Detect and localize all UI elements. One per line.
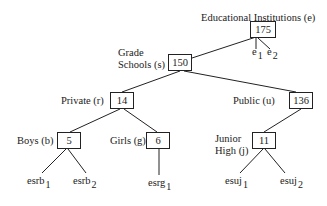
edge-s-r — [122, 71, 180, 92]
edge-e-s — [192, 37, 256, 58]
node-g-label: Girls (g) — [110, 135, 146, 147]
leaf-esuj1-base: esuj — [225, 175, 242, 186]
node-s-box: 150 — [168, 54, 192, 71]
edge-j-esuj2 — [265, 149, 285, 173]
leaf-e2-sub: 2 — [273, 50, 278, 61]
node-j-box: 11 — [252, 132, 276, 149]
node-b-box: 5 — [57, 132, 81, 149]
node-e-box: 175 — [250, 21, 276, 38]
leaf-esuj2-sub: 2 — [298, 179, 303, 190]
node-r-box: 14 — [110, 92, 134, 109]
node-s-label-line1: Grade — [118, 47, 144, 59]
node-j-label-line2: High (j) — [215, 145, 249, 157]
leaf-esrb1-base: esrb — [27, 175, 45, 186]
leaf-esrb2-base: esrb — [73, 175, 91, 186]
edge-s-u — [184, 71, 296, 92]
node-s-label-line2: Schools (s) — [118, 59, 165, 71]
leaf-esuj2-base: esuj — [280, 175, 297, 186]
leaf-e2: e2 — [267, 46, 278, 58]
edge-r-b — [70, 109, 120, 132]
node-u-label: Public (u) — [233, 95, 275, 107]
leaf-esrg1: esrg1 — [148, 177, 171, 189]
leaf-esrg1-sub: 1 — [166, 181, 171, 192]
leaf-e2-base: e — [267, 46, 272, 57]
edge-b-esrb2 — [68, 149, 86, 173]
node-b-label: Boys (b) — [17, 135, 53, 147]
edge-b-esrb1 — [42, 149, 66, 173]
node-u-box: 136 — [289, 92, 313, 109]
node-r-label: Private (r) — [61, 95, 104, 107]
edge-r-g — [124, 109, 157, 132]
leaf-esuj1-sub: 1 — [243, 179, 248, 190]
leaf-esrb2: esrb2 — [73, 175, 97, 187]
leaf-esrb1: esrb1 — [27, 175, 51, 187]
node-j-label-line1: Junior — [215, 133, 241, 145]
leaf-e1: e1 — [252, 46, 263, 58]
leaf-esrg1-base: esrg — [148, 177, 165, 188]
leaf-esrb2-sub: 2 — [92, 179, 97, 190]
edge-u-j — [264, 109, 301, 132]
node-g-box: 6 — [146, 132, 170, 149]
leaf-e1-sub: 1 — [258, 50, 263, 61]
leaf-esuj2: esuj2 — [280, 175, 303, 187]
leaf-e1-base: e — [252, 46, 257, 57]
leaf-esuj1: esuj1 — [225, 175, 248, 187]
leaf-esrb1-sub: 1 — [46, 179, 51, 190]
